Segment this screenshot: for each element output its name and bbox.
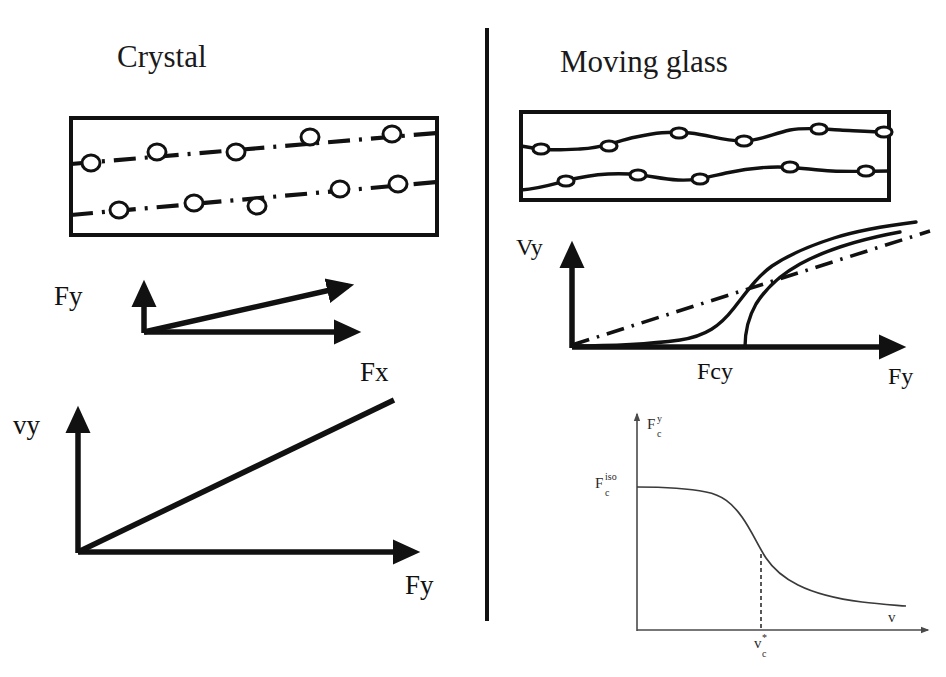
force-vector-y-label: Fy xyxy=(54,281,83,311)
moving-glass-threshold-label: Fcy xyxy=(697,358,733,384)
svg-text:c: c xyxy=(762,648,767,659)
svg-text:c: c xyxy=(657,428,662,439)
left-panel-title: Crystal xyxy=(117,39,207,74)
svg-text:y: y xyxy=(657,413,662,424)
moving-glass-plot-x-label: Fy xyxy=(888,363,913,389)
inset-x-axis-label: v xyxy=(888,609,896,625)
inset-y-axis-label: F y c xyxy=(647,413,662,439)
force-vector-x-label: Fx xyxy=(360,357,389,387)
inset-critical-force-plot: F y c F iso c v v * c xyxy=(595,413,928,659)
right-panel-title: Moving glass xyxy=(560,44,728,79)
force-vector-diagram: Fy Fx xyxy=(54,281,389,387)
moving-glass-track-upper xyxy=(521,128,889,149)
inset-vc-label: v * c xyxy=(754,632,767,659)
crystal-plot-y-label: vy xyxy=(13,410,41,440)
svg-text:v: v xyxy=(754,635,762,651)
crystal-track-lower-vortices xyxy=(110,176,407,218)
inset-curve xyxy=(637,487,906,606)
moving-glass-velocity-plot: Vy Fcy Fy xyxy=(516,222,930,389)
inset-plateau-label: F iso c xyxy=(595,471,617,498)
svg-text:c: c xyxy=(605,487,610,498)
svg-text:*: * xyxy=(762,632,767,643)
crystal-channel-box xyxy=(71,118,437,235)
force-vector-resultant-arrow xyxy=(144,286,348,332)
svg-text:iso: iso xyxy=(605,471,617,482)
svg-text:F: F xyxy=(595,475,603,491)
crystal-plot-x-label: Fy xyxy=(405,570,434,600)
figure-canvas: Crystal xyxy=(0,0,946,677)
crystal-velocity-plot: vy Fy xyxy=(13,400,434,600)
svg-text:F: F xyxy=(647,416,655,432)
crystal-track-upper-vortices xyxy=(82,126,401,171)
crystal-plot-line xyxy=(78,400,394,552)
moving-glass-box-outline xyxy=(521,112,889,200)
figure-root: Crystal xyxy=(0,0,946,677)
crystal-track-upper xyxy=(71,133,437,164)
moving-glass-channel-box xyxy=(521,112,892,200)
moving-glass-plot-y-label: Vy xyxy=(516,234,543,260)
